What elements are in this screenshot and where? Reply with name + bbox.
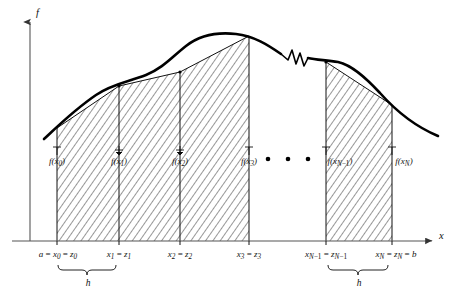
node-marker-xN-1 xyxy=(324,60,327,63)
trapezoid-1 xyxy=(119,72,180,241)
figure-canvas: f x f(x0) f(x1) f(x2) f(x3) f(xN−1) f(xN… xyxy=(0,0,455,290)
tick-label-x3: x3 = z3 xyxy=(236,249,262,261)
brace-group xyxy=(58,265,388,275)
ellipsis-dot-3 xyxy=(306,157,311,162)
ellipsis-dot-1 xyxy=(266,157,271,162)
tick-label-xN-1: xN−1 = zN−1 xyxy=(304,249,347,261)
trapezoidal-rule-figure: f x f(x0) f(x1) f(x2) f(x3) f(xN−1) f(xN… xyxy=(0,0,455,290)
brace-left xyxy=(58,265,116,275)
tick-label-x1: x1 = z1 xyxy=(106,249,131,261)
tick-label-xN: xN = zN = b xyxy=(375,249,417,261)
trapezoid-group-right xyxy=(326,62,392,241)
h-label-left: h xyxy=(86,278,91,288)
trapezoid-n xyxy=(326,62,392,241)
node-marker-x1 xyxy=(117,84,120,87)
curve-break-zigzag xyxy=(281,50,308,66)
x-axis-label: x xyxy=(438,230,444,241)
y-axis-label: f xyxy=(36,7,41,18)
axis-tick-marks xyxy=(57,241,392,245)
tick-label-x0: a = x0 = z0 xyxy=(39,249,78,261)
ellipsis-dot-2 xyxy=(286,157,291,162)
f-xN-label: f(xN) xyxy=(395,156,412,168)
ellipsis-dots xyxy=(266,157,311,162)
h-label-right: h xyxy=(357,278,362,288)
x-axis-tick-labels: a = x0 = z0 x1 = z1 x2 = z2 x3 = z3 xN−1… xyxy=(39,249,417,261)
trapezoid-group-left xyxy=(57,36,249,241)
tick-label-x2: x2 = z2 xyxy=(167,249,193,261)
brace-right xyxy=(328,265,388,275)
trapezoid-0 xyxy=(57,86,119,241)
node-marker-x2 xyxy=(178,70,181,73)
